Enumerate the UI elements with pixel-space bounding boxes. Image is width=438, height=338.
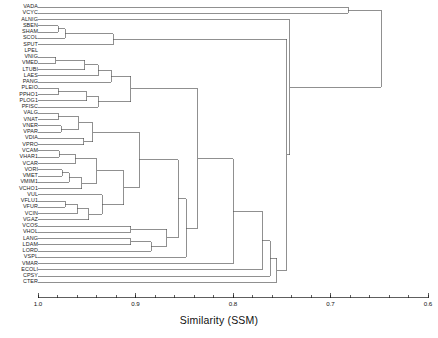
axis-tick-label: 0.6: [424, 300, 433, 307]
similarity-axis: [0, 0, 438, 338]
dendrogram-figure: VADAVCYCALNIGSBENSHAMSCOLSPUTLPELVNIGVME…: [0, 0, 438, 338]
axis-tick-label: 1.0: [34, 300, 43, 307]
axis-title: Similarity (SSM): [0, 314, 438, 326]
axis-tick-label: 0.7: [326, 300, 335, 307]
axis-tick-label: 0.9: [131, 300, 140, 307]
axis-tick-label: 0.8: [229, 300, 238, 307]
